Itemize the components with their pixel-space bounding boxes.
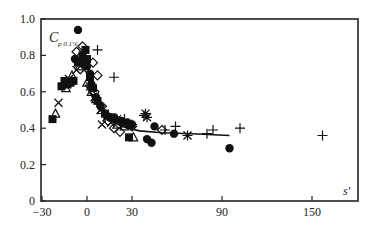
scatter-chart: −300309015000.20.40.60.81.0 C p 0.1% s' …: [0, 0, 374, 232]
filled-circle-marker: [225, 144, 233, 152]
open-diamond-marker: [93, 71, 102, 80]
filled-circle-marker: [170, 129, 178, 137]
plus-marker: [318, 130, 328, 140]
x-tick-label: 0: [84, 205, 90, 219]
x-tick-label: 150: [303, 205, 321, 219]
filled-circle-marker: [147, 139, 155, 147]
chart-canvas: −300309015000.20.40.60.81.0 C p 0.1% s': [0, 0, 374, 232]
x-axis-label: s': [343, 184, 351, 198]
x-marker: [98, 121, 106, 129]
plus-marker: [109, 72, 119, 82]
x-tick-label: 30: [126, 205, 138, 219]
filled-square-marker: [86, 73, 94, 81]
open-diamond-marker: [116, 127, 125, 136]
asterisk-marker: [142, 112, 152, 122]
x-tick-label: −30: [33, 205, 52, 219]
plus-marker: [171, 121, 181, 131]
plus-marker: [93, 45, 103, 55]
data-points: [49, 26, 328, 153]
asterisk-marker: [183, 130, 193, 140]
x-tick-label: 90: [216, 205, 228, 219]
y-tick-label: 0: [29, 194, 35, 208]
y-tick-label: 1.0: [20, 12, 35, 26]
filled-square-marker: [49, 115, 57, 123]
y-tick-label: 0.6: [20, 85, 35, 99]
filled-circle-marker: [74, 26, 82, 34]
plus-marker: [235, 123, 245, 133]
asterisk-marker: [112, 114, 122, 124]
y-tick-label: 0.4: [20, 121, 35, 135]
y-axis-label-subscript: p 0.1%: [57, 40, 78, 48]
x-marker: [55, 99, 63, 107]
y-tick-label: 0.2: [20, 158, 35, 172]
y-tick-label: 0.8: [20, 48, 35, 62]
